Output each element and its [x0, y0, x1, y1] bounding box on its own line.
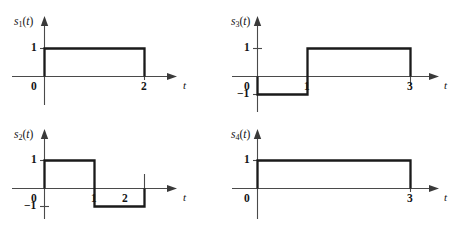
origin-label-s1: 0 [31, 81, 37, 93]
panel-s1: s1(t) 1 0 2 t [0, 0, 228, 119]
signal-trace-s4 [258, 161, 411, 189]
signal-trace-s3 [258, 49, 411, 95]
signal-label-s1: s1(t) [14, 16, 33, 29]
panel-s4: s4(t) 1 0 3 t [228, 119, 455, 238]
panel-s1-plot [0, 0, 228, 119]
x-axis-arrow-icon-s1 [167, 73, 177, 80]
signal-label-s4: s4(t) [231, 129, 250, 142]
signal-trace-s1 [45, 49, 145, 77]
origin-label-s2: 0 [31, 193, 37, 205]
x-axis-arrow-icon-s3 [429, 73, 439, 80]
panel-s3: s3(t) 1 −1 0 1 3 t [228, 0, 455, 119]
x-axis-label-s2: t [183, 192, 186, 203]
y-axis-arrow-icon-s4 [254, 129, 261, 139]
y-axis-arrow-icon-s2 [41, 129, 48, 139]
signal-waveform-figure: s1(t) 1 0 2 t s3(t) 1 −1 0 1 [0, 0, 455, 238]
panel-s3-plot [228, 0, 455, 119]
x-axis-arrow-icon-s4 [429, 185, 439, 192]
panel-s4-plot [228, 119, 455, 238]
y-tick-label-1-s4: 1 [244, 154, 250, 166]
y-tick-label-1-s2: 1 [31, 154, 37, 166]
x-axis-label-s1: t [183, 80, 186, 91]
x-tick-label-3-s3: 3 [407, 81, 413, 93]
y-tick-label-1-s3: 1 [244, 42, 250, 54]
panel-s2: s2(t) 1 −1 0 1 2 t [0, 119, 228, 238]
y-axis-arrow-icon-s3 [254, 16, 261, 26]
x-axis-arrow-icon-s2 [167, 185, 177, 192]
panel-s2-plot [0, 119, 228, 238]
x-axis-label-s4: t [444, 192, 447, 203]
x-tick-label-1-s2: 1 [91, 193, 97, 205]
x-tick-label-3-s4: 3 [407, 193, 413, 205]
x-axis-label-s3: t [444, 80, 447, 91]
y-axis-arrow-icon-s1 [41, 16, 48, 26]
x-tick-label-2-s1: 2 [141, 81, 147, 93]
signal-label-s2: s2(t) [14, 129, 33, 142]
origin-label-s4: 0 [244, 193, 250, 205]
x-tick-label-1-s3: 1 [304, 81, 310, 93]
x-tick-label-2-s2: 2 [122, 193, 128, 205]
y-tick-label-1-s1: 1 [31, 42, 37, 54]
signal-label-s3: s3(t) [231, 16, 250, 29]
origin-label-s3: 0 [244, 81, 250, 93]
